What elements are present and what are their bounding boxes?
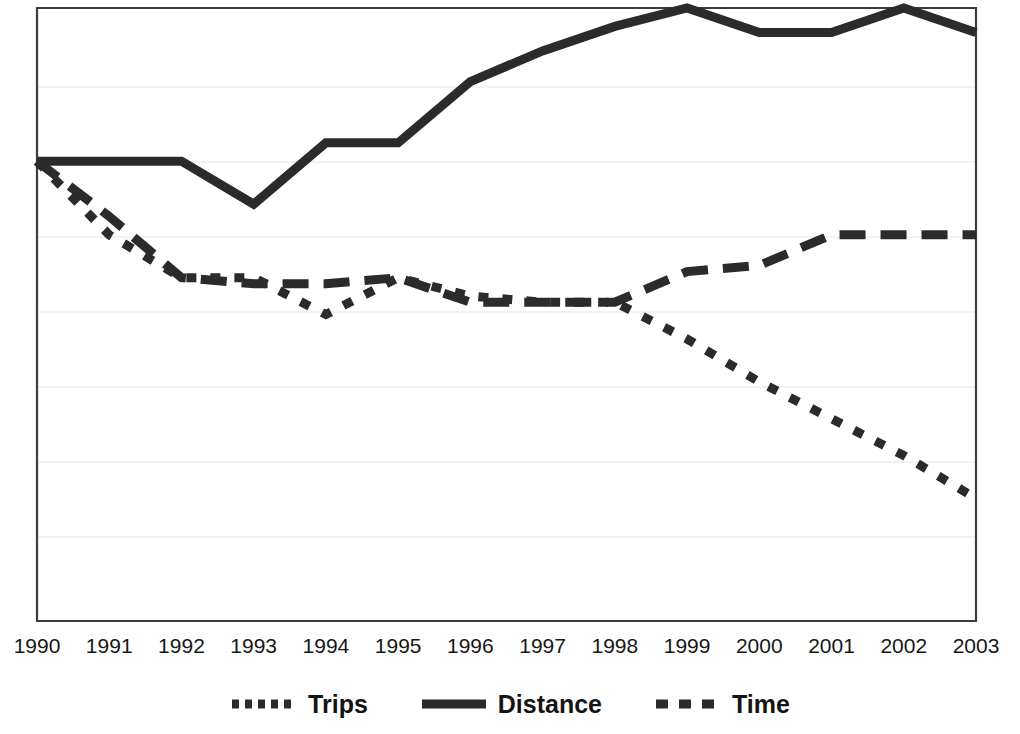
dashed-line-swatch-icon bbox=[654, 693, 722, 715]
series-line-trips bbox=[37, 161, 976, 498]
legend-label-trips: Trips bbox=[308, 690, 368, 719]
x-tick-2002: 2002 bbox=[880, 634, 927, 658]
dotted-line-swatch-icon bbox=[230, 693, 298, 715]
chart-plot-area bbox=[0, 0, 1020, 734]
x-tick-1995: 1995 bbox=[375, 634, 422, 658]
x-tick-1991: 1991 bbox=[86, 634, 133, 658]
x-tick-1997: 1997 bbox=[519, 634, 566, 658]
x-tick-1993: 1993 bbox=[230, 634, 277, 658]
legend-item-time[interactable]: Time bbox=[654, 690, 790, 719]
series-lines bbox=[37, 8, 976, 498]
x-tick-1998: 1998 bbox=[591, 634, 638, 658]
x-tick-2001: 2001 bbox=[808, 634, 855, 658]
chart-legend: Trips Distance Time bbox=[0, 682, 1020, 726]
legend-item-distance[interactable]: Distance bbox=[420, 690, 602, 719]
legend-item-trips[interactable]: Trips bbox=[230, 690, 368, 719]
x-tick-1992: 1992 bbox=[158, 634, 205, 658]
gridlines bbox=[37, 87, 976, 537]
x-tick-1999: 1999 bbox=[664, 634, 711, 658]
x-tick-2003: 2003 bbox=[953, 634, 1000, 658]
series-line-distance bbox=[37, 8, 976, 204]
legend-label-distance: Distance bbox=[498, 690, 602, 719]
line-chart: 1990 1991 1992 1993 1994 1995 1996 1997 … bbox=[0, 0, 1020, 734]
solid-line-swatch-icon bbox=[420, 693, 488, 715]
plot-frame bbox=[37, 8, 976, 621]
x-axis-tick-labels: 1990 1991 1992 1993 1994 1995 1996 1997 … bbox=[0, 634, 1020, 664]
legend-label-time: Time bbox=[732, 690, 790, 719]
x-tick-1994: 1994 bbox=[303, 634, 350, 658]
series-line-time bbox=[37, 161, 976, 302]
x-tick-1996: 1996 bbox=[447, 634, 494, 658]
x-tick-2000: 2000 bbox=[736, 634, 783, 658]
x-tick-1990: 1990 bbox=[14, 634, 61, 658]
